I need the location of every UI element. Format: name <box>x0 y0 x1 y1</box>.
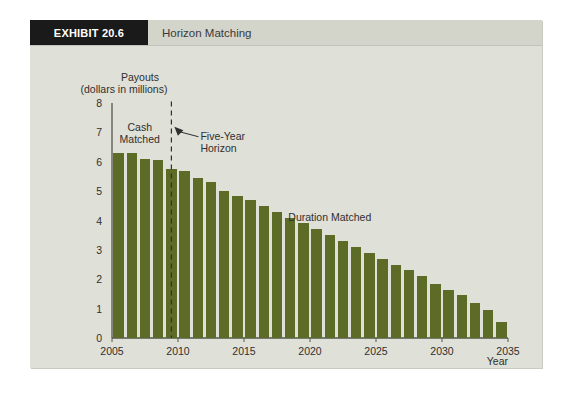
bar[interactable] <box>219 191 229 338</box>
x-tick-label: 2030 <box>430 345 454 357</box>
annotation-five-year-horizon: Five-Year <box>200 130 245 142</box>
bar[interactable] <box>351 247 361 338</box>
bar[interactable] <box>311 229 321 338</box>
y-tick-label: 2 <box>96 273 102 285</box>
bar[interactable] <box>285 218 295 338</box>
y-tick-label: 1 <box>96 303 102 315</box>
bar[interactable] <box>483 310 493 338</box>
y-axis-title-line1: Payouts <box>121 71 159 83</box>
y-axis-ticks: 012345678 <box>96 97 102 344</box>
bar[interactable] <box>496 322 506 338</box>
bar[interactable] <box>391 265 401 338</box>
bar[interactable] <box>470 303 480 338</box>
x-tick-label: 2005 <box>100 345 124 357</box>
x-axis-title: Year <box>487 355 509 367</box>
bar[interactable] <box>404 270 414 338</box>
bar[interactable] <box>206 182 216 338</box>
bar[interactable] <box>417 276 427 338</box>
y-tick-label: 7 <box>96 126 102 138</box>
exhibit-title: Horizon Matching <box>148 20 251 45</box>
bar[interactable] <box>272 212 282 338</box>
y-tick-label: 6 <box>96 156 102 168</box>
x-tick-label: 2020 <box>298 345 322 357</box>
y-tick-label: 5 <box>96 185 102 197</box>
x-tick-label: 2015 <box>232 345 256 357</box>
bar[interactable] <box>113 153 123 338</box>
bar[interactable] <box>140 159 150 338</box>
y-axis-title-line2: (dollars in millions) <box>81 83 168 95</box>
bar[interactable] <box>193 178 203 338</box>
bar[interactable] <box>232 196 242 338</box>
exhibit-header: EXHIBIT 20.6 Horizon Matching <box>30 20 542 46</box>
bar-chart-svg: Payouts (dollars in millions) 012345678 … <box>30 45 542 368</box>
annotation-five-year-horizon-line2: Horizon <box>200 142 236 154</box>
bar[interactable] <box>364 253 374 338</box>
bar[interactable] <box>325 235 335 338</box>
y-tick-label: 4 <box>96 215 102 227</box>
bar[interactable] <box>430 284 440 338</box>
bar[interactable] <box>298 223 308 338</box>
exhibit-panel: EXHIBIT 20.6 Horizon Matching Payouts (d… <box>30 20 542 368</box>
bar[interactable] <box>377 259 387 338</box>
annotation-cash-matched-line2: Matched <box>120 133 160 145</box>
bar[interactable] <box>457 295 467 338</box>
bar[interactable] <box>153 160 163 338</box>
bar[interactable] <box>179 171 189 338</box>
annotation-duration-matched: Duration Matched <box>288 211 371 223</box>
bar[interactable] <box>127 153 137 338</box>
bar[interactable] <box>443 290 453 338</box>
horizon-leader-arrow <box>174 127 198 137</box>
exhibit-number-badge: EXHIBIT 20.6 <box>30 20 148 45</box>
bar-series <box>113 153 506 338</box>
bar[interactable] <box>338 241 348 338</box>
annotation-cash-matched: Cash <box>127 121 152 133</box>
y-tick-label: 3 <box>96 244 102 256</box>
x-tick-label: 2010 <box>166 345 190 357</box>
bar[interactable] <box>259 206 269 338</box>
x-tick-label: 2025 <box>364 345 388 357</box>
chart-figure: Payouts (dollars in millions) 012345678 … <box>30 45 542 368</box>
y-tick-label: 0 <box>96 332 102 344</box>
bar[interactable] <box>245 200 255 338</box>
x-axis-ticks: 2005201020152020202520302035 <box>100 338 520 357</box>
y-tick-label: 8 <box>96 97 102 109</box>
